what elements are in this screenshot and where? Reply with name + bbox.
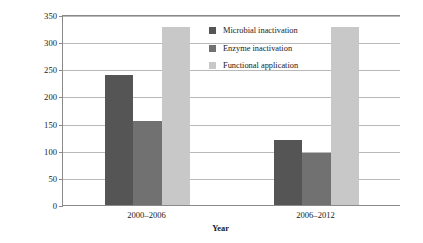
bar (162, 27, 191, 205)
y-tick-label: 300 (44, 38, 57, 48)
x-tick-label: 2006–2012 (296, 210, 335, 220)
y-tick-label: 250 (44, 65, 57, 75)
y-tick-mark (59, 125, 63, 126)
y-tick-mark (59, 16, 63, 17)
bar (105, 75, 134, 205)
y-tick-mark (59, 70, 63, 71)
y-tick-label: 350 (44, 11, 57, 21)
y-tick-mark (59, 179, 63, 180)
legend-swatch-icon (209, 62, 216, 69)
y-tick-label: 50 (48, 174, 57, 184)
legend-item: Enzyme inactivation (209, 44, 298, 53)
x-axis-line (62, 205, 400, 206)
legend-item: Microbial inactivation (209, 26, 298, 35)
y-tick-mark (59, 97, 63, 98)
legend-label: Enzyme inactivation (223, 44, 292, 53)
y-tick-label: 200 (44, 92, 57, 102)
gridline (63, 16, 400, 17)
legend-item: Functional application (209, 61, 298, 70)
legend-label: Functional application (223, 61, 298, 70)
y-tick-label: 150 (44, 120, 57, 130)
y-axis-title: Growth in the number of articles (%) (0, 0, 18, 243)
legend-label: Microbial inactivation (223, 26, 298, 35)
bar (302, 153, 331, 205)
y-tick-mark (59, 43, 63, 44)
legend-swatch-icon (209, 27, 216, 34)
x-tick-label: 2000–2006 (127, 210, 166, 220)
y-tick-label: 0 (53, 201, 57, 211)
legend: Microbial inactivationEnzyme inactivatio… (209, 26, 298, 70)
x-axis-title-text: Year (212, 224, 229, 233)
y-tick-mark (59, 152, 63, 153)
x-axis-title: Year (0, 224, 423, 233)
bar (331, 27, 360, 205)
y-tick-mark (59, 206, 63, 207)
bar-chart: Growth in the number of articles (%) 050… (0, 0, 423, 243)
bar (274, 140, 303, 205)
legend-swatch-icon (209, 45, 216, 52)
bar (133, 121, 162, 205)
y-tick-label: 100 (44, 147, 57, 157)
